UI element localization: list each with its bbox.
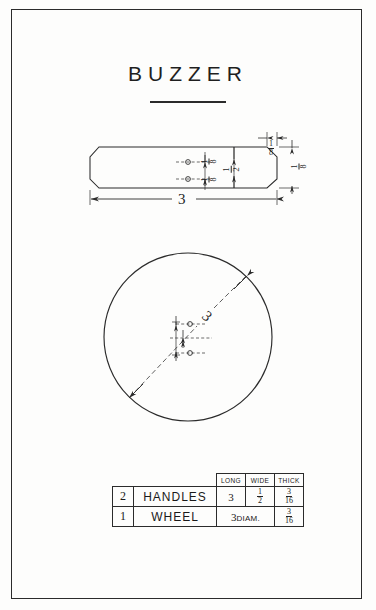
dim-overall-length: 3 — [178, 191, 186, 208]
drawing-sheet: BUZZER — [0, 0, 376, 610]
row-wheel-qty: 1 — [113, 507, 134, 527]
column-header-long: LONG — [217, 474, 246, 487]
dim-bar-thickness: 1 8 — [291, 164, 308, 170]
row-handles-qty: 2 — [113, 487, 134, 507]
row-wheel-name: WHEEL — [134, 507, 217, 527]
table-row: 2 HANDLES 3 1 2 3 16 — [113, 487, 304, 507]
column-header-thick: THICK — [275, 474, 304, 487]
row-handles-wide: 1 2 — [246, 487, 275, 507]
dim-chamfer: 1 8 — [268, 140, 274, 157]
header-spacer-qty — [113, 474, 134, 487]
row-wheel-diameter: 3DIAM. — [217, 507, 275, 527]
row-wheel-thick: 3 16 — [275, 507, 304, 527]
table-header-row: LONG WIDE THICK — [113, 474, 304, 487]
parts-table: LONG WIDE THICK 2 HANDLES 3 1 2 3 16 1 — [112, 473, 304, 527]
header-spacer-name — [134, 474, 217, 487]
dim-hole-spacing-upper: 1 8 — [201, 159, 218, 165]
dim-bar-width: 1 2 — [222, 166, 241, 173]
row-handles-thick: 3 16 — [275, 487, 304, 507]
row-handles-long: 3 — [217, 487, 246, 507]
dim-hole-spacing-lower: 1 8 — [201, 177, 218, 183]
row-handles-name: HANDLES — [134, 487, 217, 507]
column-header-wide: WIDE — [246, 474, 275, 487]
table-row: 1 WHEEL 3DIAM. 3 16 — [113, 507, 304, 527]
